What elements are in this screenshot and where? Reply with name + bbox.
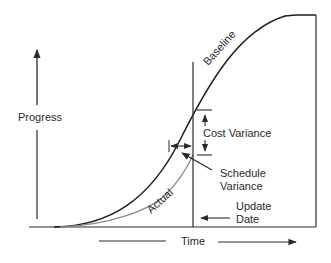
time-label: Time (181, 235, 205, 247)
schedule-variance-label-1: Schedule (220, 167, 266, 179)
baseline-curve (54, 15, 316, 227)
schedule-variance-label-2: Variance (220, 180, 263, 192)
update-date-label-1: Update (236, 200, 271, 212)
progress-label: Progress (18, 111, 63, 123)
actual-label: Actual (144, 186, 175, 215)
s-curve-diagram: Progress Baseline Actual Cost Variance S… (0, 0, 331, 263)
baseline-label: Baseline (201, 28, 238, 67)
actual-curve (60, 155, 193, 227)
cost-variance-label: Cost Variance (203, 127, 271, 139)
update-date-label-2: Date (236, 213, 259, 225)
